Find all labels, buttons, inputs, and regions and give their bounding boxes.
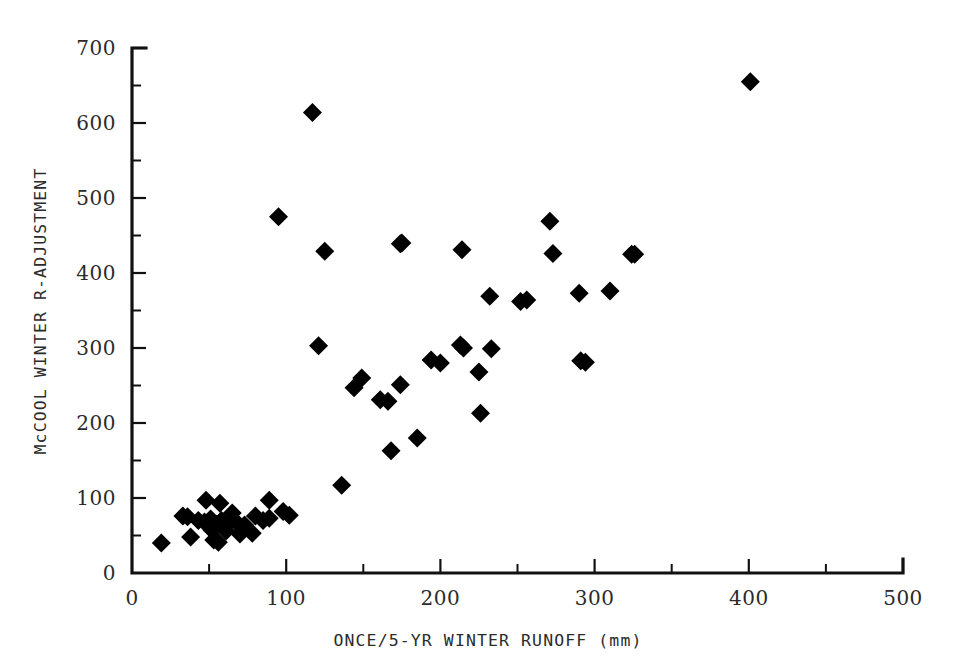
data-point-marker <box>197 491 216 510</box>
y-tick-label: 400 <box>76 261 116 285</box>
data-point-marker <box>382 441 401 460</box>
data-point-marker <box>391 375 410 394</box>
data-point-marker <box>315 242 334 261</box>
data-point-marker <box>303 103 322 122</box>
axis-lines <box>132 48 903 573</box>
y-tick-labels: 0100200300400500600700 <box>76 36 116 585</box>
data-point-marker <box>601 282 620 301</box>
x-tick-labels: 0100200300400500 <box>125 586 922 610</box>
y-tick-label: 300 <box>76 336 116 360</box>
data-point-marker <box>152 534 171 553</box>
data-point-marker <box>181 528 200 547</box>
data-point-marker <box>332 476 351 495</box>
data-point-marker <box>408 429 427 448</box>
data-point-marker <box>260 491 279 510</box>
data-point-marker <box>741 72 760 91</box>
x-tick-label: 400 <box>729 586 769 610</box>
scatter-plot-figure: 0100200300400500600700 0100200300400500 … <box>0 0 969 669</box>
x-tick-label: 300 <box>575 586 615 610</box>
data-point-marker <box>480 287 499 306</box>
major-tick-group <box>132 48 903 573</box>
data-point-marker <box>469 363 488 382</box>
data-point-marker <box>471 404 490 423</box>
y-axis-title: McCOOL WINTER R-ADJUSTMENT <box>31 168 50 455</box>
y-tick-label: 100 <box>76 486 116 510</box>
data-point-group <box>152 72 760 552</box>
plot-canvas: 0100200300400500600700 0100200300400500 … <box>0 0 969 669</box>
data-point-marker <box>543 244 562 263</box>
y-tick-label: 600 <box>76 111 116 135</box>
data-point-marker <box>452 240 471 259</box>
data-point-marker <box>540 212 559 231</box>
x-axis-title: ONCE/5-YR WINTER RUNOFF (mm) <box>334 631 643 650</box>
x-tick-label: 500 <box>883 586 923 610</box>
data-point-marker <box>482 339 501 358</box>
x-tick-label: 0 <box>125 586 138 610</box>
data-point-marker <box>309 336 328 355</box>
data-point-marker <box>269 207 288 226</box>
y-tick-label: 500 <box>76 186 116 210</box>
x-tick-label: 100 <box>266 586 306 610</box>
y-tick-label: 700 <box>76 36 116 60</box>
y-tick-label: 0 <box>103 561 116 585</box>
minor-tick-group <box>132 86 826 574</box>
data-point-marker <box>392 234 411 253</box>
y-tick-label: 200 <box>76 411 116 435</box>
x-tick-label: 200 <box>421 586 461 610</box>
axis-frame <box>132 48 903 573</box>
data-point-marker <box>625 245 644 264</box>
data-point-marker <box>570 284 589 303</box>
